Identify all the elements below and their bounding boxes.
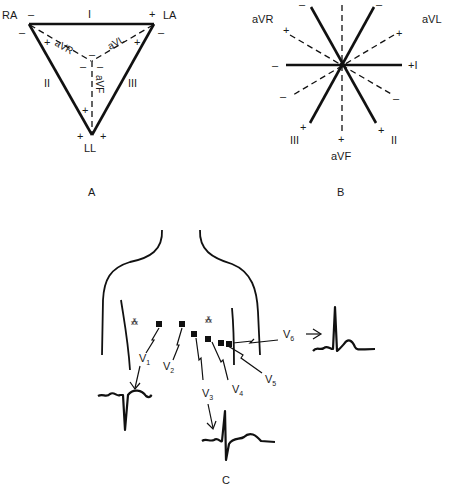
waveform-v1 [98, 391, 151, 430]
minus-sign: – [80, 60, 87, 72]
lead-wire-v4 [212, 342, 228, 380]
lead-label-v3: V3 [202, 387, 213, 401]
lead-label-v4: V4 [232, 383, 243, 397]
electrode-la: LA [163, 9, 177, 21]
plus-sign: + [338, 133, 344, 145]
caption-a: A [88, 186, 96, 198]
lead-wire-v2 [173, 328, 182, 360]
caption-c: C [222, 474, 230, 486]
minus-sign: – [89, 48, 96, 60]
nipple-left: ⁂ [131, 318, 138, 325]
avr-label: aVR [53, 37, 75, 56]
lead-label-v2: V2 [163, 360, 174, 374]
electrode-v3 [191, 331, 197, 337]
avf-label: aVF [331, 150, 351, 162]
arrow-v3 [207, 404, 216, 429]
minus-sign: – [376, 0, 383, 10]
avl-label: aVL [106, 33, 127, 52]
plus-sign: + [283, 24, 289, 36]
plus-sign: + [77, 130, 83, 142]
waveform-v3 [202, 411, 275, 460]
panel-b-hexaxial-system: aVR aVL +I III II aVF – – + + – – – + + … [252, 0, 442, 198]
electrode-ll: LL [84, 142, 96, 154]
origin-point [340, 63, 345, 68]
plus-sign: + [134, 36, 140, 48]
lead-ii-label: II [391, 134, 397, 146]
caption-b: B [337, 186, 344, 198]
minus-sign: – [158, 26, 165, 38]
torso-left-outline [102, 230, 162, 355]
left-arm-inner [121, 300, 130, 370]
lead-iii-label: III [290, 134, 299, 146]
electrode-ra: RA [2, 9, 18, 21]
arrow-v6 [306, 329, 321, 339]
avr-label: aVR [252, 13, 273, 25]
plus-sign: + [396, 27, 402, 39]
plus-sign: + [100, 130, 106, 142]
lead-i-label: +I [408, 59, 417, 71]
minus-sign: – [393, 92, 400, 104]
lead-wire-v3 [196, 338, 203, 380]
lead-label-v6: V6 [283, 328, 294, 342]
lead-ii-label: II [44, 77, 50, 89]
lead-label-v1: V1 [139, 352, 150, 366]
lead-iii-label: III [128, 77, 137, 89]
minus-sign: – [97, 60, 104, 72]
avf-label: aVF [94, 75, 105, 93]
plus-sign: + [82, 104, 88, 116]
plus-sign: + [149, 8, 155, 20]
waveform-v6 [313, 307, 375, 351]
plus-sign: + [300, 121, 306, 133]
minus-sign: – [280, 90, 287, 102]
avl-label: aVL [422, 13, 442, 25]
minus-sign: – [19, 26, 26, 38]
panel-a-einthoven-triangle: RA LA LL I II III aVR aVL aVF – + – + – … [2, 8, 177, 198]
minus-sign: – [299, 0, 306, 10]
plus-sign: + [44, 36, 50, 48]
minus-sign: – [28, 8, 35, 20]
ecg-lead-diagram: RA LA LL I II III aVR aVL aVF – + – + – … [0, 0, 452, 490]
lead-label-v5: V5 [265, 373, 276, 387]
lead-wire-v6 [233, 339, 278, 343]
lead-i-label: I [88, 8, 91, 20]
nipple-right: ⁂ [205, 316, 212, 323]
arrow-v1 [130, 366, 140, 389]
lead-wire-v1 [146, 328, 159, 353]
electrode-v1 [156, 321, 162, 327]
panel-c-precordial-leads: ⁂ ⁂ V1 V2 V3 V4 V5 V6 [98, 230, 375, 486]
right-arm-inner [232, 308, 234, 365]
electrode-v4 [205, 336, 211, 342]
plus-sign: + [378, 124, 384, 136]
electrode-v2 [179, 321, 185, 327]
electrode-v5 [218, 340, 224, 346]
minus-sign: – [272, 59, 279, 71]
